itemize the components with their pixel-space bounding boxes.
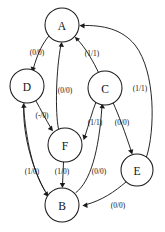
edge-f-to-b-arrowhead xyxy=(60,183,65,188)
edge-label-b-to-c: (0/0) xyxy=(92,167,107,176)
edge-label-f-to-b: (1/0) xyxy=(55,167,70,176)
edge-label-c-to-a: (1/1) xyxy=(85,49,100,58)
state-node-a-label: A xyxy=(58,20,67,32)
state-node-d-label: D xyxy=(23,81,31,93)
state-node-e[interactable]: E xyxy=(121,154,153,186)
edge-label-e-to-a: (1/1) xyxy=(133,84,148,93)
edge-e-to-b-arrowhead xyxy=(82,203,87,208)
edge-label-c-to-f: (1/1) xyxy=(88,118,103,127)
edge-label-f-to-a: (0/0) xyxy=(58,86,73,95)
state-node-b-label: B xyxy=(58,200,66,212)
state-node-b[interactable]: B xyxy=(45,188,79,222)
edge-label-layer: (0/0) (1/1) (0/0) (1/1) (-/0) (1/1) (0/0… xyxy=(25,48,148,210)
edge-label-d-to-b: (1/0) xyxy=(25,167,40,176)
state-node-c-label: C xyxy=(101,83,109,95)
edge-label-d-to-f: (-/0) xyxy=(35,111,49,120)
edge-label-a-to-d: (0/0) xyxy=(30,48,45,57)
state-node-d[interactable]: D xyxy=(10,69,44,103)
edge-c-to-e-path xyxy=(113,103,132,153)
state-node-f[interactable]: F xyxy=(48,128,82,162)
edge-label-c-to-e: (0/0) xyxy=(115,118,130,127)
edge-e-to-a-arrowhead xyxy=(79,23,84,28)
edge-label-e-to-b: (0/0) xyxy=(111,201,126,210)
edge-c-to-e-arrowhead xyxy=(128,149,133,154)
state-node-f-label: F xyxy=(62,140,68,152)
state-node-a[interactable]: A xyxy=(45,8,79,42)
state-diagram-canvas: A D C F E B xyxy=(0,0,165,232)
state-node-c[interactable]: C xyxy=(88,71,122,105)
state-node-e-label: E xyxy=(133,165,140,177)
edge-c-to-e xyxy=(113,103,133,155)
edge-f-to-a-arrowhead xyxy=(59,42,64,47)
state-transition-graph: A D C F E B xyxy=(0,0,165,232)
node-layer: A D C F E B xyxy=(10,8,153,222)
